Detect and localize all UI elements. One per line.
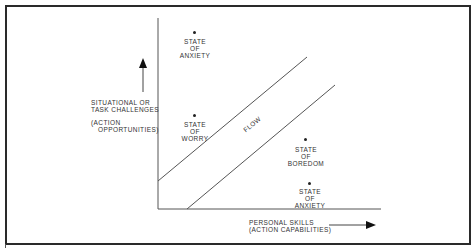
state-line: STATE bbox=[284, 146, 328, 153]
state-point-anxiety-top bbox=[193, 31, 196, 34]
state-line: OF bbox=[174, 45, 216, 52]
state-label-anxiety-top: STATE OF ANXIETY bbox=[174, 38, 216, 59]
state-line: OF bbox=[288, 195, 332, 202]
y-axis-label-line2: TASK CHALLENGES bbox=[91, 106, 159, 113]
x-arrow-head-icon bbox=[366, 221, 376, 229]
state-line: ANXIETY bbox=[174, 52, 216, 59]
state-label-anxiety-bottom: STATE OF ANXIETY bbox=[288, 188, 332, 209]
state-point-worry bbox=[193, 114, 196, 117]
state-line: STATE bbox=[288, 188, 332, 195]
state-label-boredom: STATE OF BOREDOM bbox=[284, 146, 328, 167]
x-axis-label-line2: (ACTION CAPABILITIES) bbox=[249, 226, 331, 233]
y-axis-sublabel: (ACTION OPPORTUNITIES) bbox=[91, 119, 159, 133]
state-line: WORRY bbox=[174, 135, 216, 142]
x-axis-label: PERSONAL SKILLS (ACTION CAPABILITIES) bbox=[249, 219, 331, 233]
y-axis-sublabel-line2: OPPORTUNITIES) bbox=[91, 126, 159, 133]
state-line: OF bbox=[284, 153, 328, 160]
state-line: BOREDOM bbox=[284, 160, 328, 167]
state-line: ANXIETY bbox=[288, 202, 332, 209]
y-axis-label-line1: SITUATIONAL OR bbox=[91, 99, 159, 106]
state-label-worry: STATE OF WORRY bbox=[174, 121, 216, 142]
state-line: OF bbox=[174, 128, 216, 135]
diagram-canvas bbox=[0, 0, 473, 248]
x-axis-label-line1: PERSONAL SKILLS bbox=[249, 219, 331, 226]
state-point-boredom bbox=[304, 138, 307, 141]
state-line: STATE bbox=[174, 38, 216, 45]
y-arrow-head-icon bbox=[139, 58, 147, 68]
state-point-anxiety-bottom bbox=[308, 182, 311, 185]
y-axis-sublabel-line1: (ACTION bbox=[91, 119, 159, 126]
y-axis-label: SITUATIONAL OR TASK CHALLENGES bbox=[91, 99, 159, 113]
state-line: STATE bbox=[174, 121, 216, 128]
edge-tick-mark bbox=[5, 244, 6, 248]
